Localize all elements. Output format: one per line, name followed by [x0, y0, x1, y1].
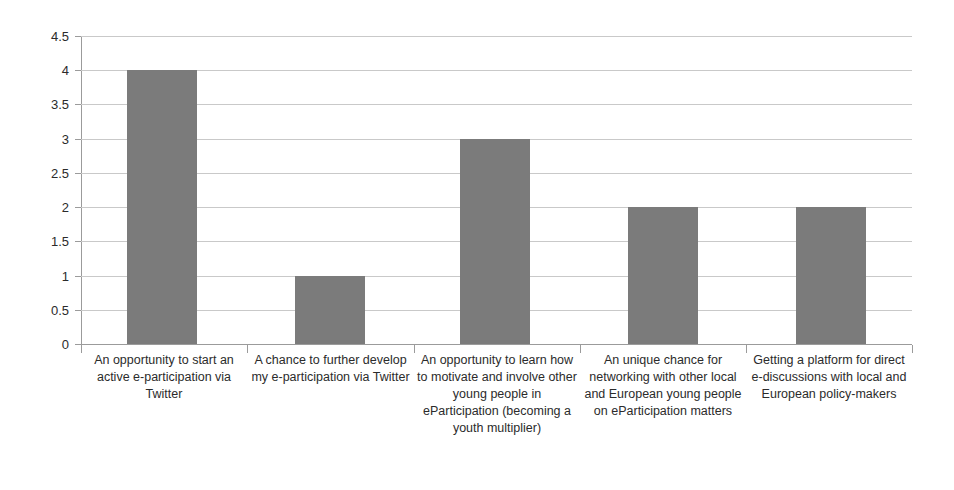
y-axis-tick-label: 2: [28, 201, 69, 214]
gridline: [81, 104, 912, 105]
bar: [295, 276, 365, 344]
y-axis-tick-label: 0.5: [28, 304, 69, 317]
bar: [460, 139, 530, 344]
y-axis-tick-label: 4: [28, 64, 69, 77]
x-axis-category-label: A chance to further develop my e-partici…: [247, 352, 414, 386]
bar-chart: 4.5 4 3.5 3 2.5 2 1.5 1 0.5 0: [0, 0, 954, 490]
y-axis-tick-label: 0: [28, 338, 69, 351]
x-axis-category-tick: [912, 345, 913, 353]
y-axis-tick-label: 1.5: [28, 235, 69, 248]
x-axis-category-label: An opportunity to learn how to motivate …: [414, 352, 580, 437]
x-axis-category-label: An opportunity to start an active e-part…: [81, 352, 247, 403]
bar: [127, 70, 197, 344]
y-axis-tick-label: 2.5: [28, 167, 69, 180]
y-axis-tick-label: 4.5: [28, 30, 69, 43]
x-axis-category-label: An unique chance for networking with oth…: [580, 352, 746, 420]
y-axis-tick-label: 1: [28, 270, 69, 283]
gridline: [81, 70, 912, 71]
y-axis-tick-label: 3.5: [28, 98, 69, 111]
bar: [628, 207, 698, 344]
y-axis-tick-label: 3: [28, 133, 69, 146]
x-axis-line: [81, 344, 912, 345]
plot-area: [81, 36, 912, 344]
x-axis-category-label: Getting a platform for direct e-discussi…: [746, 352, 912, 403]
bar: [796, 207, 866, 344]
gridline: [81, 36, 912, 37]
